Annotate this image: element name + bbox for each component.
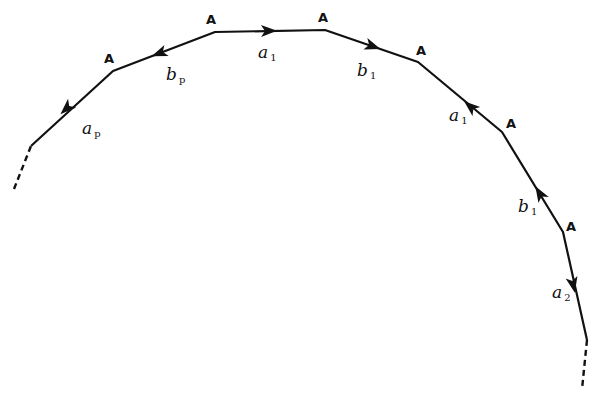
vertex-labels: AAAAAA: [104, 10, 576, 234]
edge-label: b1: [357, 60, 376, 81]
boundary-path: [14, 30, 587, 389]
edge-label: a1: [449, 105, 468, 126]
arrowhead-icon: [149, 45, 168, 62]
edge-label: a1: [258, 42, 277, 63]
vertex-label: A: [318, 10, 328, 25]
edge-label: a2: [552, 282, 571, 303]
dashed-continuation-start: [14, 146, 31, 189]
edge-label: b1: [518, 196, 537, 217]
vertex-label: A: [416, 43, 426, 58]
vertex-label: A: [506, 116, 516, 131]
vertex-label: A: [566, 219, 576, 234]
vertex-label: A: [206, 12, 216, 27]
edge-labels: apbpa1b1a1b1a2: [82, 42, 571, 303]
edge-arrows: [56, 25, 580, 294]
vertex-label: A: [104, 51, 114, 66]
solid-boundary: [31, 30, 587, 340]
polygon-boundary-diagram: AAAAAA apbpa1b1a1b1a2: [0, 0, 595, 399]
arrowhead-icon: [530, 183, 549, 203]
arrowhead-icon: [363, 38, 382, 55]
edge-label: bp: [166, 64, 185, 85]
dashed-continuation-end: [582, 340, 587, 389]
edge-label: ap: [82, 118, 101, 139]
arrowhead-icon: [56, 99, 76, 119]
